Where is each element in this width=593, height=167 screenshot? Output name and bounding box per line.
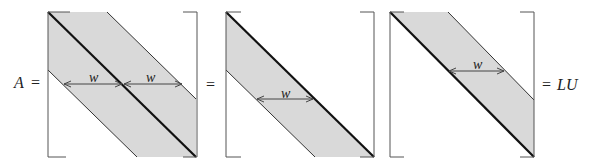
matrix-l xyxy=(226,12,374,157)
equals-sign-1: = xyxy=(31,74,40,92)
lu-label: LU xyxy=(557,76,577,94)
bandwidth-label-a-right: w xyxy=(146,70,155,86)
bandwidth-label-a-left: w xyxy=(89,70,98,86)
matrix-a-label: A xyxy=(14,74,24,92)
matrix-u xyxy=(390,12,534,157)
bandwidth-label-l: w xyxy=(281,86,290,102)
equals-sign-2: = xyxy=(206,76,215,94)
matrix-a xyxy=(48,12,197,157)
equals-sign-3: = xyxy=(542,76,551,94)
bandwidth-label-u: w xyxy=(473,57,482,73)
